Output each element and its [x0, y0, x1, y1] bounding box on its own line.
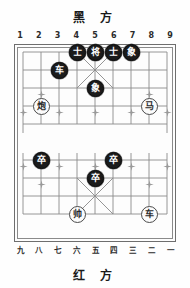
red-chariot[interactable]: 车 — [141, 206, 158, 223]
coord-bottom-6: 四 — [108, 245, 120, 256]
star-point — [145, 84, 154, 93]
star-point — [91, 156, 100, 165]
coord-top-5: 5 — [89, 30, 101, 41]
coord-top-2: 2 — [33, 30, 45, 41]
star-point — [55, 156, 64, 165]
star-point — [19, 156, 28, 165]
coord-top-1: 1 — [14, 30, 26, 41]
top-coordinate-row: 123456789 — [14, 30, 176, 41]
coord-bottom-9: 一 — [164, 245, 176, 256]
red-side-title: 红 方 — [0, 266, 190, 283]
coord-top-6: 6 — [108, 30, 120, 41]
coord-bottom-3: 七 — [52, 245, 64, 256]
star-point — [145, 174, 154, 183]
coord-top-8: 8 — [145, 30, 157, 41]
coord-bottom-4: 六 — [70, 245, 82, 256]
red-cannon[interactable]: 炮 — [33, 98, 50, 115]
star-point — [127, 156, 136, 165]
black-general[interactable]: 将 — [87, 44, 104, 61]
black-side-title: 黑 方 — [0, 8, 190, 25]
red-marshal[interactable]: 帅 — [69, 206, 86, 223]
coord-bottom-5: 五 — [89, 245, 101, 256]
star-point — [163, 156, 172, 165]
black-elephant-left[interactable]: 象 — [87, 80, 104, 97]
black-pawn-left[interactable]: 卒 — [33, 152, 50, 169]
black-advisor-right[interactable]: 士 — [105, 44, 122, 61]
star-point — [19, 102, 28, 111]
coord-bottom-1: 九 — [14, 245, 26, 256]
bottom-coordinate-row: 九八七六五四三二一 — [14, 245, 176, 256]
coord-bottom-8: 二 — [145, 245, 157, 256]
river-area — [18, 133, 172, 153]
red-horse[interactable]: 马 — [141, 98, 158, 115]
game-board[interactable]: 士将士象车象炮马卒卒卒帅车 — [14, 44, 176, 242]
coord-top-9: 9 — [164, 30, 176, 41]
star-point — [37, 84, 46, 93]
star-point — [55, 102, 64, 111]
star-point — [163, 102, 172, 111]
star-point — [91, 102, 100, 111]
xiangqi-board-screenshot: 黑 方 123456789 士将士象车象炮马卒卒卒帅车 九八七六五四三二一 红 … — [0, 0, 190, 288]
black-pawn-right[interactable]: 卒 — [105, 152, 122, 169]
black-elephant-right[interactable]: 象 — [123, 44, 140, 61]
black-advisor-left[interactable]: 士 — [69, 44, 86, 61]
coord-top-4: 4 — [70, 30, 82, 41]
star-point — [37, 174, 46, 183]
star-point — [127, 102, 136, 111]
coord-bottom-7: 三 — [127, 245, 139, 256]
coord-top-3: 3 — [52, 30, 64, 41]
coord-bottom-2: 八 — [33, 245, 45, 256]
coord-top-7: 7 — [127, 30, 139, 41]
black-pawn-center[interactable]: 卒 — [87, 170, 104, 187]
black-chariot[interactable]: 车 — [51, 62, 68, 79]
